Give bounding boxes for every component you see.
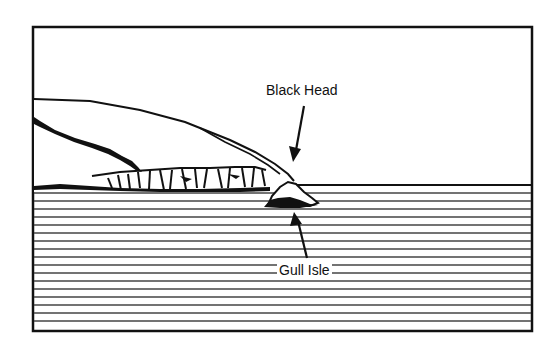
gull-isle-label: Gull Isle: [277, 262, 332, 278]
black-head-label: Black Head: [266, 82, 338, 98]
coastline-diagram: [0, 0, 560, 356]
